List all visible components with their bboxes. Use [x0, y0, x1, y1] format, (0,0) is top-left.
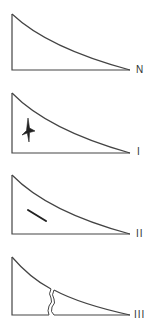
panel-label-n: N [136, 65, 144, 75]
panel-i-shape [12, 93, 130, 153]
panel-label-ii: II [136, 229, 144, 239]
star-fracture-icon [22, 118, 35, 142]
panel-ii-shape [12, 175, 130, 234]
panel-label-iii: III [134, 310, 145, 320]
line-crack-icon [28, 210, 46, 221]
panel-iii-shape [12, 257, 130, 315]
diagram-canvas [0, 0, 156, 321]
through-crack-icon [48, 289, 55, 315]
panel-label-i: I [137, 147, 141, 157]
panel-n-shape [12, 14, 130, 70]
